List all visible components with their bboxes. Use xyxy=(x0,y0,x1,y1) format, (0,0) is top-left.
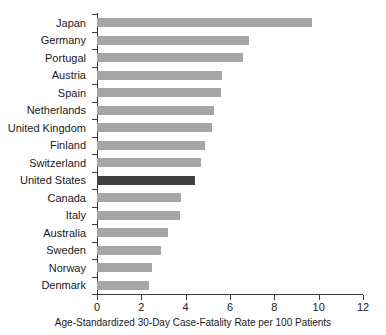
y-axis-label: Japan xyxy=(0,14,89,32)
bar-row xyxy=(97,277,363,295)
x-axis-tick-label: 10 xyxy=(313,301,325,314)
y-axis-category-labels: JapanGermanyPortugalAustriaSpainNetherla… xyxy=(0,14,89,294)
y-axis-label: Germany xyxy=(0,32,89,50)
y-axis-label: Spain xyxy=(0,84,89,102)
bar-row xyxy=(97,84,363,102)
bar xyxy=(97,106,214,115)
bar xyxy=(97,193,181,202)
y-axis-label: Australia xyxy=(0,224,89,242)
bar-row xyxy=(97,207,363,225)
bar-row xyxy=(97,32,363,50)
bar-highlight xyxy=(97,176,195,185)
bar xyxy=(97,18,312,27)
bar xyxy=(97,228,168,237)
y-axis-label: Norway xyxy=(0,259,89,277)
x-axis-tick-label: 4 xyxy=(183,301,189,314)
bar xyxy=(97,211,180,220)
bar-row xyxy=(97,119,363,137)
y-axis-label: United States xyxy=(0,172,89,190)
x-axis-tick-label: 0 xyxy=(94,301,100,314)
x-axis-tick-label: 12 xyxy=(357,301,369,314)
x-axis-tick xyxy=(274,295,275,300)
y-axis-label: Canada xyxy=(0,189,89,207)
y-axis-label: Austria xyxy=(0,67,89,85)
bar-row xyxy=(97,67,363,85)
bar-chart: JapanGermanyPortugalAustriaSpainNetherla… xyxy=(0,0,386,335)
x-axis-tick xyxy=(141,295,142,300)
bar xyxy=(97,158,201,167)
bar-row xyxy=(97,102,363,120)
y-axis-label: Denmark xyxy=(0,277,89,295)
bar-row xyxy=(97,154,363,172)
bar xyxy=(97,53,243,62)
x-axis-title: Age-Standardized 30-Day Case-Fatality Ra… xyxy=(0,317,386,329)
y-axis-label: Italy xyxy=(0,207,89,225)
x-axis-tick-label: 2 xyxy=(138,301,144,314)
x-axis-tick xyxy=(319,295,320,300)
bar xyxy=(97,263,152,272)
bar xyxy=(97,71,222,80)
bar xyxy=(97,88,221,97)
bar xyxy=(97,281,149,290)
bar xyxy=(97,123,212,132)
bar-row xyxy=(97,137,363,155)
bar-row xyxy=(97,172,363,190)
bar-row xyxy=(97,14,363,32)
bar xyxy=(97,246,161,255)
y-axis-label: Switzerland xyxy=(0,154,89,172)
x-axis-tick xyxy=(97,295,98,300)
x-axis-tick-label: 8 xyxy=(271,301,277,314)
bar xyxy=(97,141,205,150)
bar-row xyxy=(97,242,363,260)
bar-row xyxy=(97,224,363,242)
x-axis-ticks xyxy=(97,295,363,300)
bar-rows xyxy=(97,14,363,294)
bar-row xyxy=(97,259,363,277)
x-axis-tick xyxy=(186,295,187,300)
plot-area xyxy=(97,14,363,294)
bar-row xyxy=(97,189,363,207)
x-axis-tick-label: 6 xyxy=(227,301,233,314)
bar-row xyxy=(97,49,363,67)
y-axis-label: Portugal xyxy=(0,49,89,67)
x-axis-tick xyxy=(363,295,364,300)
x-axis-tick xyxy=(230,295,231,300)
x-axis-tick-labels: 024681012 xyxy=(97,301,363,315)
bar xyxy=(97,36,249,45)
y-axis-label: Finland xyxy=(0,137,89,155)
y-axis-label: United Kingdom xyxy=(0,119,89,137)
y-axis-label: Netherlands xyxy=(0,102,89,120)
y-axis-label: Sweden xyxy=(0,242,89,260)
